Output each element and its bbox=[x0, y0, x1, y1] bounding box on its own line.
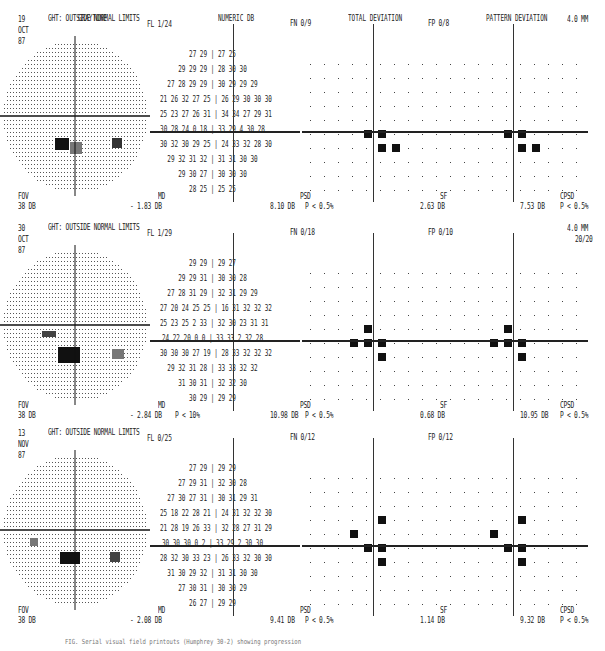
numeric-row: 29 32 31 28 | 33 33 32 32 bbox=[160, 364, 265, 373]
pattern-deviation-plot bbox=[440, 414, 590, 623]
numeric-row: 29 29 31 | 30 30 28 bbox=[160, 274, 265, 283]
test-panel: 19OCT87GHT: OUTSIDE NORMAL LIMITSFL 1/24… bbox=[0, 0, 605, 209]
deviation-vertical-axis bbox=[513, 233, 514, 411]
deviation-vertical-axis bbox=[513, 24, 514, 202]
numeric-vertical-axis bbox=[233, 24, 234, 202]
md-label: MD bbox=[158, 401, 165, 410]
fovea-label: FOV bbox=[18, 606, 29, 615]
numeric-row: 25 23 27 26 31 | 34 34 27 29 31 bbox=[160, 110, 265, 119]
graytone-map bbox=[0, 18, 150, 198]
deviation-vertical-axis bbox=[513, 438, 514, 616]
psd-label: PSD bbox=[300, 401, 311, 410]
total-deviation-plot bbox=[300, 209, 450, 418]
sf-value: 1.14 DB bbox=[420, 616, 445, 625]
deviation-horizontal-axis bbox=[302, 545, 448, 547]
numeric-row: 27 20 24 25 25 | 16 31 32 32 32 bbox=[160, 304, 265, 313]
fixation-losses: FL 0/25 bbox=[147, 434, 172, 443]
cpsd-label: CPSD bbox=[560, 192, 574, 201]
numeric-row: 31 30 29 32 | 31 31 30 30 bbox=[160, 569, 265, 578]
numeric-row: 28 32 30 33 23 | 26 33 32 30 30 bbox=[160, 554, 265, 563]
numeric-row: 27 30 27 31 | 30 31 29 31 bbox=[160, 494, 265, 503]
numeric-row: 27 29 | 27 25 bbox=[160, 50, 265, 59]
fovea-value: 38 DB bbox=[18, 616, 36, 625]
numeric-row: 29 29 29 | 28 30 30 bbox=[160, 65, 265, 74]
deviation-vertical-axis bbox=[373, 233, 374, 411]
pattern-deviation-plot bbox=[440, 209, 590, 418]
numeric-row: 30 30 30 27 19 | 28 33 32 32 32 bbox=[160, 349, 265, 358]
sf-label: SF bbox=[440, 401, 447, 410]
deviation-horizontal-axis bbox=[302, 340, 448, 342]
numeric-row: 21 28 19 26 33 | 32 28 27 31 29 bbox=[160, 524, 265, 533]
numeric-row: 25 18 22 28 21 | 24 31 32 32 30 bbox=[160, 509, 265, 518]
numeric-horizontal-axis bbox=[150, 545, 300, 547]
md-label: MD bbox=[158, 192, 165, 201]
fovea-label: FOV bbox=[18, 401, 29, 410]
sf-label: SF bbox=[440, 192, 447, 201]
deviation-horizontal-axis bbox=[302, 131, 448, 133]
numeric-row: 29 29 | 29 27 bbox=[160, 259, 265, 268]
cpsd-value: 9.32 DB bbox=[520, 616, 545, 625]
psd-label: PSD bbox=[300, 192, 311, 201]
numeric-row: 21 26 32 27 25 | 26 29 30 30 30 bbox=[160, 95, 265, 104]
numeric-row: 27 28 29 29 | 30 29 29 29 bbox=[160, 80, 265, 89]
numeric-row: 25 23 25 2 33 | 32 30 23 31 31 bbox=[160, 319, 265, 328]
numeric-row: 27 29 31 | 32 30 28 bbox=[160, 479, 265, 488]
deviation-horizontal-axis bbox=[442, 340, 588, 342]
figure-caption: FIG. Serial visual field printouts (Hump… bbox=[65, 638, 301, 646]
numeric-row: 29 32 31 32 | 31 31 30 30 bbox=[160, 155, 265, 164]
numeric-row: 29 30 27 | 30 30 30 bbox=[160, 170, 265, 179]
numeric-row: 27 30 31 | 30 30 29 bbox=[160, 584, 265, 593]
deviation-horizontal-axis bbox=[442, 131, 588, 133]
numeric-vertical-axis bbox=[233, 233, 234, 411]
pattern-deviation-plot bbox=[440, 0, 590, 209]
total-deviation-plot bbox=[300, 414, 450, 623]
numeric-row: 28 25 | 25 25 bbox=[160, 185, 265, 194]
numeric-vertical-axis bbox=[233, 438, 234, 616]
numeric-horizontal-axis bbox=[150, 340, 300, 342]
fixation-losses: FL 1/24 bbox=[147, 20, 172, 29]
psd-value: 9.41 DB bbox=[270, 616, 295, 625]
psd-p-value: P < 0.5% bbox=[305, 616, 333, 625]
md-value: - 2.08 DB bbox=[130, 616, 162, 625]
numeric-row: 30 32 30 29 25 | 24 33 32 28 30 bbox=[160, 140, 265, 149]
cpsd-p-value: P < 0.5% bbox=[560, 616, 588, 625]
fovea-label: FOV bbox=[18, 192, 29, 201]
psd-label: PSD bbox=[300, 606, 311, 615]
numeric-row: 27 28 31 29 | 32 31 29 29 bbox=[160, 289, 265, 298]
deviation-vertical-axis bbox=[373, 24, 374, 202]
md-label: MD bbox=[158, 606, 165, 615]
deviation-vertical-axis bbox=[373, 438, 374, 616]
test-panel: 30OCT87GHT: OUTSIDE NORMAL LIMITSFL 1/29… bbox=[0, 209, 605, 418]
numeric-row: 26 27 | 29 29 bbox=[160, 599, 265, 608]
deviation-horizontal-axis bbox=[442, 545, 588, 547]
total-deviation-plot bbox=[300, 0, 450, 209]
sf-label: SF bbox=[440, 606, 447, 615]
fixation-losses: FL 1/29 bbox=[147, 229, 172, 238]
graytone-map bbox=[0, 227, 150, 407]
numeric-horizontal-axis bbox=[150, 131, 300, 133]
numeric-row: 27 29 | 29 29 bbox=[160, 464, 265, 473]
numeric-row: 30 29 | 29 29 bbox=[160, 394, 265, 403]
test-panel: 13NOV87GHT: OUTSIDE NORMAL LIMITSFL 0/25… bbox=[0, 414, 605, 623]
graytone-map bbox=[0, 432, 150, 612]
numeric-row: 31 30 31 | 32 32 30 bbox=[160, 379, 265, 388]
cpsd-label: CPSD bbox=[560, 606, 574, 615]
cpsd-label: CPSD bbox=[560, 401, 574, 410]
